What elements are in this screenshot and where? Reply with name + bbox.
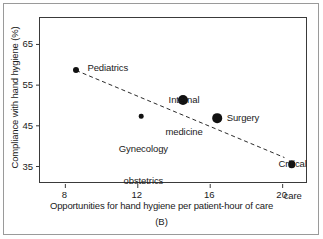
point-label-surgery-text: Surgery xyxy=(227,112,260,123)
point-label-gynecology-line2: obstetrics xyxy=(119,176,168,187)
point-label-pediatrics: Pediatrics xyxy=(72,53,128,85)
figure-panel-b: Pediatrics Gynecology obstetrics Interna… xyxy=(0,0,323,239)
panel-label: (B) xyxy=(0,216,323,227)
point-label-surgery: Surgery xyxy=(211,102,259,134)
x-tick-label-12: 12 xyxy=(131,189,142,200)
point-label-gynecology-line1: Gynecology xyxy=(119,144,168,155)
x-tick-label-8: 8 xyxy=(62,189,67,200)
y-axis-title: Compliance with hand hygiene (%) xyxy=(9,18,20,178)
x-axis-title: Opportunities for hand hygiene per patie… xyxy=(0,200,323,211)
point-label-internal-medicine: Internal medicine xyxy=(165,74,202,158)
point-label-internal-line2: medicine xyxy=(165,127,202,138)
data-point-gynecology xyxy=(139,114,144,119)
point-label-gynecology-obstetrics: Gynecology obstetrics xyxy=(119,123,168,207)
point-label-internal-line1: Internal xyxy=(165,95,202,106)
plot-area: Pediatrics Gynecology obstetrics Interna… xyxy=(39,17,307,183)
point-label-critical-line1: Critical xyxy=(279,159,307,170)
point-label-pediatrics-text: Pediatrics xyxy=(87,62,128,73)
x-tick-label-16: 16 xyxy=(204,189,215,200)
x-tick-label-20: 20 xyxy=(276,189,287,200)
